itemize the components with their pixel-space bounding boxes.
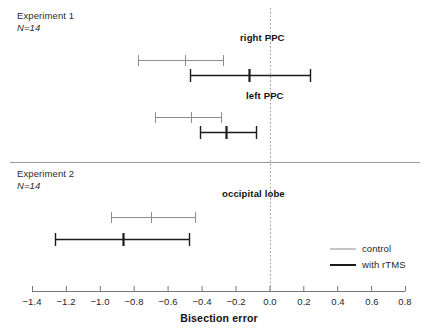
- errorbar-left-ppc-control: [155, 112, 222, 123]
- experiment-1-label: Experiment 1 N=14: [17, 10, 74, 34]
- errorbar-occipital-control: [111, 212, 196, 223]
- experiment-1-sample-size: N=14: [17, 22, 74, 34]
- xtick-label-6: −0.2: [226, 296, 245, 307]
- experiment-2-name: Experiment 2: [17, 168, 74, 179]
- xtick-label-5: −0.4: [192, 296, 211, 307]
- x-axis: [32, 286, 406, 292]
- errorbar-occipital-rtms: [55, 233, 190, 246]
- errorbar-right-ppc-rtms: [190, 69, 311, 82]
- experiment-2-sample-size: N=14: [17, 180, 74, 192]
- group-label-left-ppc: left PPC: [246, 90, 284, 101]
- legend-label-control: control: [362, 243, 391, 254]
- xtick-label-0: −1.4: [22, 296, 41, 307]
- xtick-label-3: −0.8: [124, 296, 143, 307]
- legend: control with rTMS: [330, 243, 406, 270]
- group-label-right-ppc: right PPC: [240, 32, 285, 43]
- legend-line-control-icon: [330, 246, 356, 252]
- legend-item-rtms: with rTMS: [330, 259, 406, 270]
- xtick-label-4: −0.6: [158, 296, 177, 307]
- chart-canvas: [0, 0, 429, 332]
- legend-item-control: control: [330, 243, 406, 254]
- legend-label-rtms: with rTMS: [362, 259, 406, 270]
- legend-line-rtms-icon: [330, 262, 356, 268]
- xtick-label-10: 0.6: [365, 296, 379, 307]
- experiment-1-name: Experiment 1: [17, 10, 74, 21]
- experiment-2-label: Experiment 2 N=14: [17, 168, 74, 192]
- xtick-label-2: −1.0: [90, 296, 109, 307]
- x-axis-title: Bisection error: [180, 312, 258, 324]
- errorbar-right-ppc-control: [138, 55, 224, 66]
- xtick-label-9: 0.4: [331, 296, 345, 307]
- xtick-label-8: 0.2: [297, 296, 311, 307]
- xtick-label-7: 0.0: [263, 296, 277, 307]
- group-label-occipital-lobe: occipital lobe: [222, 188, 285, 199]
- plot-area: Experiment 1 N=14 Experiment 2 N=14 righ…: [0, 0, 429, 332]
- bisection-error-figure: Experiment 1 N=14 Experiment 2 N=14 righ…: [0, 0, 429, 332]
- errorbar-left-ppc-rtms: [200, 126, 257, 139]
- xtick-label-11: 0.8: [398, 296, 412, 307]
- xtick-label-1: −1.2: [56, 296, 75, 307]
